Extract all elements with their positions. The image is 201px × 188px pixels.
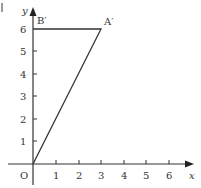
y-tick-label: 5 bbox=[20, 46, 26, 57]
y-tick-label: 2 bbox=[20, 114, 26, 125]
y-tick-label: 1 bbox=[20, 136, 26, 147]
triangle-OAB bbox=[33, 29, 101, 164]
y-axis-label: y bbox=[21, 5, 28, 16]
point-label-B: B′ bbox=[37, 15, 47, 26]
y-axis-arrow-icon bbox=[30, 7, 37, 16]
x-tick-label: 1 bbox=[53, 170, 59, 181]
x-axis-label: x bbox=[189, 170, 195, 181]
y-tick-label: 4 bbox=[20, 69, 26, 80]
x-tick-label: 2 bbox=[76, 170, 82, 181]
x-tick-label: 4 bbox=[121, 170, 127, 181]
x-tick-label: 3 bbox=[98, 170, 104, 181]
y-tick-label: 6 bbox=[20, 24, 26, 35]
x-tick-label: 6 bbox=[166, 170, 172, 181]
origin-label: O bbox=[20, 170, 28, 181]
x-tick-label: 5 bbox=[143, 170, 149, 181]
point-label-A: A′ bbox=[103, 16, 114, 27]
coordinate-diagram: 1 2 3 4 5 6 x 1 2 3 4 5 6 y O A′ B′ bbox=[0, 0, 201, 188]
x-axis-arrow-icon bbox=[185, 161, 194, 168]
y-tick-label: 3 bbox=[20, 91, 26, 102]
